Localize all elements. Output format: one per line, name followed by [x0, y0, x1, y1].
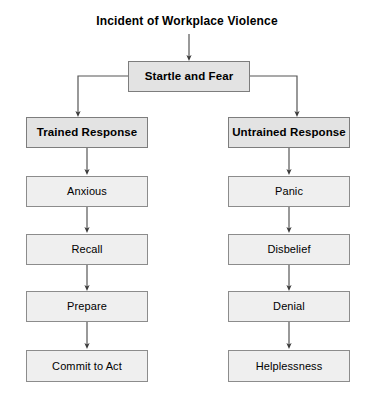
flowchart-diagram: Incident of Workplace Violence Startle a… [0, 0, 374, 403]
node-untrained-response[interactable]: Untrained Response [228, 117, 350, 148]
node-untrained-step-3[interactable]: Denial [228, 291, 350, 322]
node-trained-step-1[interactable]: Anxious [26, 176, 148, 207]
connector-root-to-trained [78, 76, 128, 114]
node-untrained-step-1[interactable]: Panic [228, 176, 350, 207]
node-trained-response[interactable]: Trained Response [26, 117, 148, 148]
node-startle-and-fear[interactable]: Startle and Fear [128, 61, 250, 92]
node-trained-step-3[interactable]: Prepare [26, 291, 148, 322]
connector-root-to-untrained [250, 76, 297, 114]
node-trained-step-4[interactable]: Commit to Act [26, 350, 148, 382]
node-untrained-step-2[interactable]: Disbelief [228, 234, 350, 265]
node-untrained-step-4[interactable]: Helplessness [228, 350, 350, 382]
page-title: Incident of Workplace Violence [0, 14, 374, 28]
node-trained-step-2[interactable]: Recall [26, 234, 148, 265]
